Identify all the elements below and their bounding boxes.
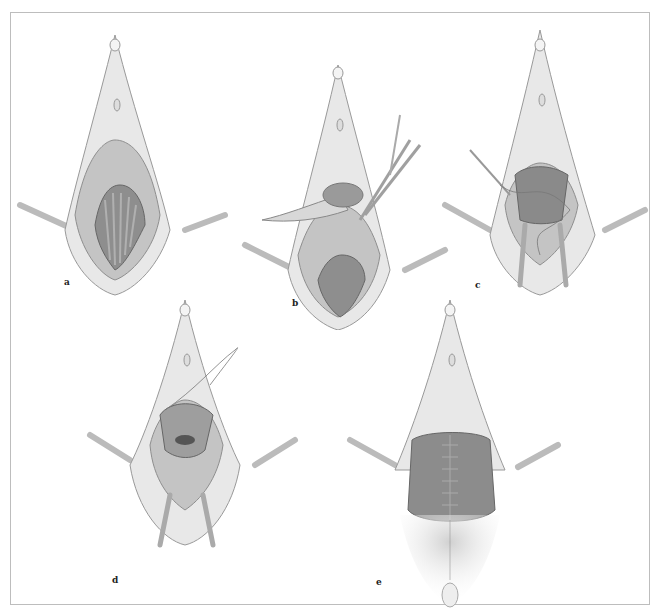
surgical-illustration-c xyxy=(440,25,655,300)
panel-label-a: a xyxy=(64,277,70,287)
panel-c xyxy=(440,25,655,300)
surgical-illustration-a xyxy=(15,25,230,300)
panel-b xyxy=(240,55,455,330)
panel-label-c: c xyxy=(475,280,480,290)
panel-label-e: e xyxy=(376,577,382,587)
surgical-illustration-e xyxy=(340,295,570,610)
panel-e xyxy=(340,295,570,610)
surgical-illustration-d xyxy=(85,295,300,570)
panel-a xyxy=(15,25,230,300)
panel-label-d: d xyxy=(112,575,118,585)
panel-d xyxy=(85,295,300,570)
surgical-illustration-b xyxy=(240,55,455,330)
